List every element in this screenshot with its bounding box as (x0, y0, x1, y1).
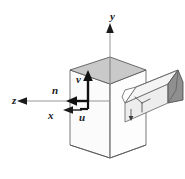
figure-container: y z x n v u (0, 0, 185, 179)
label-vector-u: u (79, 112, 85, 123)
diagram-canvas (0, 0, 185, 179)
label-axis-z: z (12, 95, 16, 106)
label-axis-x: x (48, 110, 54, 121)
x-axis-arrowhead (63, 106, 73, 114)
z-axis-arrowhead (17, 97, 27, 105)
label-vector-v: v (76, 74, 81, 85)
y-axis-arrowhead (106, 23, 114, 33)
label-vector-n: n (52, 85, 58, 96)
label-axis-y: y (110, 11, 115, 22)
